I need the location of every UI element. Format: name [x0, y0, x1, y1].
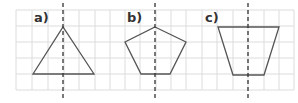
figure-a-label: a) — [34, 10, 49, 25]
figure-c-label: c) — [205, 10, 219, 25]
figure-b-label: b) — [127, 10, 142, 25]
grid — [16, 10, 294, 90]
symmetry-diagram: a) b) c) — [0, 0, 298, 103]
figure-c: c) — [205, 3, 279, 100]
